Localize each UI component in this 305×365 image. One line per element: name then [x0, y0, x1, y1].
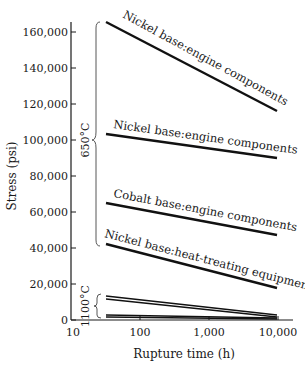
bracket-650 [92, 22, 100, 246]
bracket-1100 [94, 294, 101, 318]
x-tick-label: 100 [130, 326, 151, 339]
chart: 0 20,000 40,000 60,000 80,000 100,000 12… [0, 0, 305, 365]
y-tick-label: 40,000 [30, 242, 69, 255]
y-tick-label: 80,000 [30, 170, 69, 183]
series-line-1100-b [106, 299, 277, 317]
y-axis-title: Stress (psi) [5, 141, 19, 210]
y-ticks [71, 32, 76, 320]
x-tick-label: 10,000 [259, 326, 298, 339]
group-label-650: 650°C [79, 123, 92, 158]
y-tick-label: 120,000 [23, 98, 69, 111]
y-tick-label: 160,000 [23, 26, 69, 39]
x-tick-labels: 10 100 1,000 10,000 [66, 326, 297, 339]
y-tick-label: 140,000 [23, 62, 69, 75]
group-label-1100: 1100°C [79, 285, 92, 327]
x-tick-label: 10 [66, 326, 80, 339]
x-tick-label: 1,000 [193, 326, 225, 339]
series-label-nickel-engine-2: Nickel base:engine components [113, 117, 299, 157]
series-line-1100-a [106, 296, 277, 315]
y-tick-label: 60,000 [30, 206, 69, 219]
series-label-nickel-heat: Nickel base:heat-treating equipment [103, 226, 305, 293]
y-tick-label: 20,000 [30, 278, 69, 291]
y-tick-labels: 0 20,000 40,000 60,000 80,000 100,000 12… [23, 26, 69, 327]
series-line-nickel-engine-1 [106, 22, 277, 111]
series-label-nickel-engine-1: Nickel base:engine components [121, 7, 291, 108]
x-axis-title: Rupture time (h) [133, 347, 235, 361]
y-tick-label: 100,000 [23, 134, 69, 147]
